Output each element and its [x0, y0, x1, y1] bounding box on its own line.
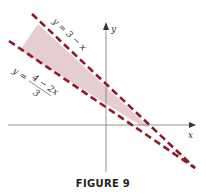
figure-caption: FIGURE 9 [0, 178, 206, 189]
y-axis-label: y [110, 24, 117, 34]
y-axis-arrow-icon [103, 22, 109, 30]
line-y-equals-4-minus-2x-over-3 [9, 41, 195, 168]
x-axis-arrow-icon [189, 122, 196, 128]
lower-line-label-prefix: y = [10, 65, 29, 83]
lower-line-label-denominator: 3 [31, 87, 42, 99]
figure-diagram: x y y = 3 − x y = 4 − 2x 3 [0, 0, 206, 195]
x-axis-label: x [188, 130, 193, 140]
